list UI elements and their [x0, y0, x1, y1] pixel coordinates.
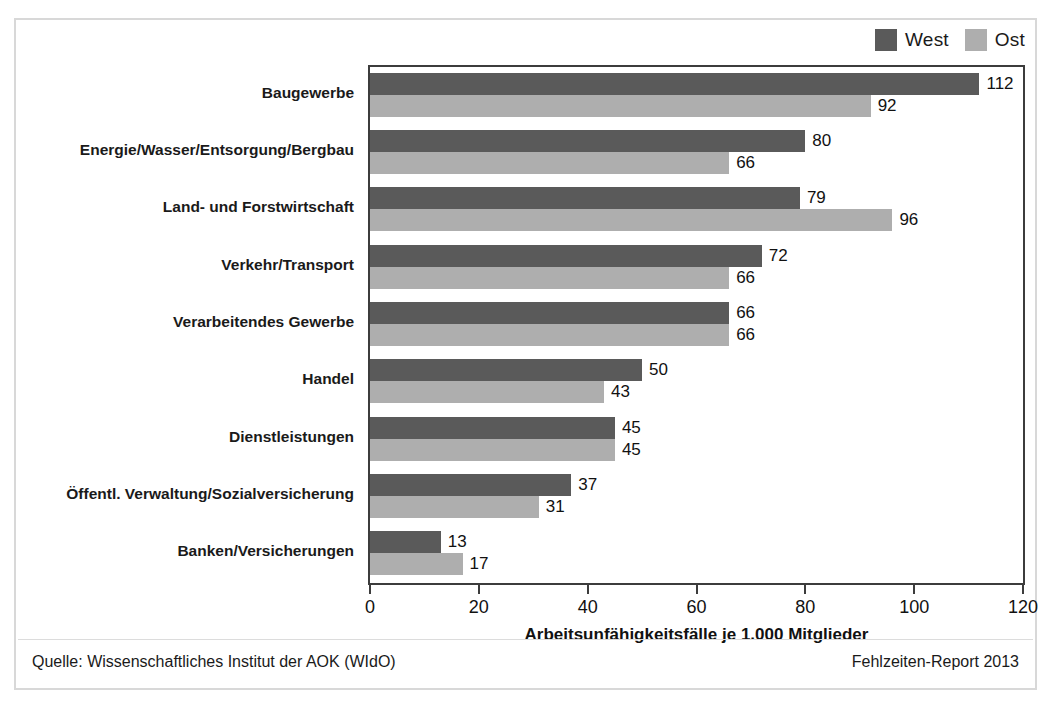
x-axis-title: Arbeitsunfähigkeitsfälle je 1.000 Mitgli…: [368, 625, 1025, 645]
bar-group: 1317: [370, 531, 1023, 575]
bar-value-label: 37: [571, 475, 597, 495]
bar-value-label: 72: [762, 246, 788, 266]
bar-value-label: 112: [979, 74, 1013, 94]
bar-west[interactable]: [370, 531, 441, 553]
bar-group: 4545: [370, 417, 1023, 461]
category-label: Dienstleistungen: [2, 429, 368, 445]
category-axis: BaugewerbeEnergie/Wasser/Entsorgung/Berg…: [16, 65, 368, 585]
bar-group: 7996: [370, 187, 1023, 231]
legend-swatch-ost: [965, 29, 987, 51]
plot-area: 1129280667996726666665043454537311317: [368, 65, 1025, 585]
legend-entry-ost[interactable]: Ost: [965, 29, 1025, 51]
bar-west[interactable]: [370, 130, 805, 152]
x-tick-label: 120: [1008, 597, 1038, 618]
bar-ost[interactable]: [370, 267, 729, 289]
x-tick-label: 0: [365, 597, 375, 618]
x-tick-mark: [587, 585, 589, 594]
x-tick-label: 40: [578, 597, 598, 618]
bar-west[interactable]: [370, 474, 571, 496]
bar-group: 6666: [370, 302, 1023, 346]
report-note: Fehlzeiten-Report 2013: [852, 653, 1019, 671]
category-label: Verkehr/Transport: [2, 257, 368, 273]
legend-label-west: West: [905, 29, 949, 51]
bar-group: 7266: [370, 245, 1023, 289]
category-label: Land- und Forstwirtschaft: [2, 199, 368, 215]
x-tick-label: 100: [899, 597, 929, 618]
bar-west[interactable]: [370, 417, 615, 439]
bar-value-label: 45: [615, 440, 641, 460]
bar-value-label: 13: [441, 532, 467, 552]
figure-frame: West Ost BaugewerbeEnergie/Wasser/Entsor…: [14, 18, 1037, 690]
legend-swatch-west: [875, 29, 897, 51]
category-label: Verarbeitendes Gewerbe: [2, 314, 368, 330]
bar-group: 11292: [370, 73, 1023, 117]
bar-value-label: 43: [604, 382, 630, 402]
x-tick-mark: [913, 585, 915, 594]
bar-value-label: 50: [642, 360, 668, 380]
category-label: Baugewerbe: [2, 85, 368, 101]
category-label: Energie/Wasser/Entsorgung/Bergbau: [2, 142, 368, 158]
bar-value-label: 31: [539, 497, 565, 517]
category-label: Banken/Versicherungen: [2, 543, 368, 559]
footer-divider: [18, 639, 1033, 640]
bar-ost[interactable]: [370, 152, 729, 174]
bar-value-label: 92: [871, 96, 897, 116]
bar-value-label: 80: [805, 131, 831, 151]
x-tick-label: 80: [795, 597, 815, 618]
category-label: Handel: [2, 371, 368, 387]
x-tick-mark: [478, 585, 480, 594]
bar-value-label: 45: [615, 418, 641, 438]
bar-value-label: 79: [800, 188, 826, 208]
x-tick-mark: [804, 585, 806, 594]
legend-entry-west[interactable]: West: [875, 29, 949, 51]
bar-ost[interactable]: [370, 553, 463, 575]
bar-value-label: 66: [729, 325, 755, 345]
x-tick-label: 60: [686, 597, 706, 618]
bar-value-label: 66: [729, 268, 755, 288]
bar-ost[interactable]: [370, 439, 615, 461]
bar-value-label: 66: [729, 153, 755, 173]
figure-footer: Quelle: Wissenschaftliches Institut der …: [32, 648, 1019, 676]
chart-legend: West Ost: [875, 29, 1025, 51]
bar-west[interactable]: [370, 187, 800, 209]
bar-group: 5043: [370, 359, 1023, 403]
bar-west[interactable]: [370, 302, 729, 324]
bar-ost[interactable]: [370, 209, 892, 231]
bar-ost[interactable]: [370, 95, 871, 117]
bar-value-label: 66: [729, 303, 755, 323]
plot-wrapper: BaugewerbeEnergie/Wasser/Entsorgung/Berg…: [16, 65, 1039, 605]
bar-group: 8066: [370, 130, 1023, 174]
x-tick-mark: [696, 585, 698, 594]
x-axis: Arbeitsunfähigkeitsfälle je 1.000 Mitgli…: [368, 585, 1025, 655]
bar-ost[interactable]: [370, 496, 539, 518]
bar-ost[interactable]: [370, 381, 604, 403]
bar-value-label: 96: [892, 210, 918, 230]
legend-label-ost: Ost: [995, 29, 1025, 51]
category-label: Öffentl. Verwaltung/Sozialversicherung: [2, 486, 368, 502]
bar-group: 3731: [370, 474, 1023, 518]
source-note: Quelle: Wissenschaftliches Institut der …: [32, 653, 396, 671]
x-tick-mark: [1022, 585, 1024, 594]
bar-west[interactable]: [370, 245, 762, 267]
bar-west[interactable]: [370, 73, 979, 95]
x-tick-mark: [369, 585, 371, 594]
x-tick-label: 20: [469, 597, 489, 618]
bar-ost[interactable]: [370, 324, 729, 346]
bar-west[interactable]: [370, 359, 642, 381]
bar-value-label: 17: [463, 554, 489, 574]
